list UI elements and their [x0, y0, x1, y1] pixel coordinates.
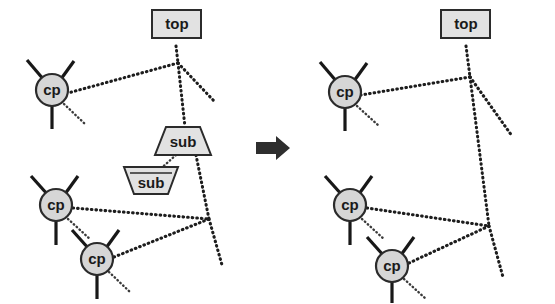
- rhs-cp2-port-up-right: [359, 176, 372, 194]
- rhs-cp-node-3[interactable]: cp: [367, 237, 414, 303]
- lhs-sub1-label: sub: [170, 133, 197, 150]
- edge-cp3-to-junction2: [114, 219, 209, 257]
- lhs-top-node[interactable]: top: [152, 10, 201, 38]
- edge-junction1-to-sub1: [178, 63, 185, 127]
- rhs-cp-node-1[interactable]: cp: [320, 62, 367, 131]
- rhs-edge-cp3-to-junction2: [409, 226, 489, 263]
- lhs-sub-node-2[interactable]: sub: [124, 167, 178, 194]
- rhs-edge-cp2-stub-dotted: [362, 219, 385, 240]
- rhs-top-node[interactable]: top: [441, 10, 490, 38]
- rhs-cp2-label: cp: [341, 196, 359, 213]
- rewrites-to-arrow: [256, 136, 290, 160]
- rhs-edge-junction2-tail: [489, 226, 503, 277]
- edge-cp1-stub-dotted: [64, 104, 85, 124]
- panel-lhs: cp cp cp top sub: [27, 10, 222, 299]
- lhs-cp-node-3[interactable]: cp: [72, 230, 119, 299]
- cp2-label: cp: [47, 196, 65, 213]
- panel-rhs: cp cp cp top: [320, 10, 512, 303]
- cp3-label: cp: [88, 250, 106, 267]
- rhs-cp-node-2[interactable]: cp: [325, 176, 372, 245]
- rhs-edge-cp2-to-junction2: [367, 208, 489, 226]
- lhs-sub2-label: sub: [138, 174, 165, 191]
- lhs-cp-node-2[interactable]: cp: [31, 176, 78, 245]
- edge-junction1-stub-right: [178, 63, 214, 101]
- edge-junction1-to-cp1: [68, 63, 178, 93]
- rhs-cp1-label: cp: [336, 83, 354, 100]
- rhs-cp1-port-up-right: [354, 63, 367, 81]
- edge-top-to-junction1: [176, 46, 178, 63]
- cp1-label: cp: [43, 81, 61, 98]
- rhs-edge-cp1-stub-dotted: [357, 106, 379, 126]
- edge-cp2-to-junction2: [73, 208, 209, 219]
- lhs-top-label: top: [165, 15, 188, 32]
- edge-sub1-to-junction2: [196, 155, 209, 219]
- rhs-top-label: top: [454, 15, 477, 32]
- rhs-cp3-port-up-right: [401, 237, 414, 255]
- rhs-edge-cp3-stub-dotted: [404, 279, 426, 299]
- cp2-port-up-right: [65, 176, 78, 194]
- cp3-port-up-right: [106, 230, 119, 248]
- edge-junction2-tail: [209, 219, 222, 265]
- rhs-edge-junction1-to-cp1: [361, 77, 470, 95]
- rhs-edge-top-to-junction1: [466, 46, 470, 77]
- edge-cp3-stub-dotted: [109, 272, 131, 293]
- lhs-sub-node-1[interactable]: sub: [155, 127, 211, 155]
- right-arrow-icon: [256, 136, 290, 160]
- cp1-port-up-right: [61, 61, 74, 79]
- rhs-cp3-label: cp: [383, 257, 401, 274]
- diagram-canvas: cp cp cp top sub: [0, 0, 555, 304]
- lhs-cp-node-1[interactable]: cp: [27, 60, 74, 129]
